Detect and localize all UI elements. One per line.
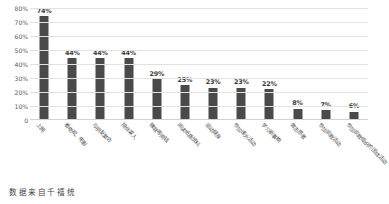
x-axis-label: 运动健身: [203, 121, 223, 141]
y-axis-tick-label: 0: [2, 117, 28, 124]
plot-area: 74%44%44%44%29%25%23%23%22%8%7%6%: [30, 8, 368, 120]
bar-value-label: 22%: [262, 80, 277, 88]
gridline: [30, 50, 368, 51]
x-axis-label: 上网: [34, 121, 47, 134]
y-axis-tick-label: 60%: [2, 33, 28, 40]
bar[interactable]: [68, 58, 77, 120]
gridline: [30, 78, 368, 79]
bar[interactable]: [180, 85, 189, 120]
bar[interactable]: [265, 89, 274, 120]
x-axis-label: 参加宗教组织的团体活动: [344, 121, 389, 166]
bar[interactable]: [96, 58, 105, 120]
x-axis-label: 看电视、电影: [63, 121, 90, 148]
x-axis-label: 阅读纸质资料: [175, 121, 202, 148]
axis-baseline: [30, 119, 368, 120]
bar[interactable]: [40, 16, 49, 120]
x-axis-label: 参加宗教活动: [316, 121, 343, 148]
gridline: [30, 22, 368, 23]
chart-caption: 数据来自千禧统: [9, 186, 76, 197]
y-axis-tick-label: 10%: [2, 103, 28, 110]
gridline: [30, 8, 368, 9]
bar-value-label: 23%: [206, 78, 221, 86]
y-axis-tick-label: 40%: [2, 61, 28, 68]
bar-value-label: 29%: [149, 70, 164, 78]
x-axis-label: 与朋友聚会: [91, 121, 114, 144]
gridline: [30, 106, 368, 107]
y-axis-tick-label: 50%: [2, 47, 28, 54]
x-axis-label: 参加课外活动: [232, 121, 259, 148]
bar-value-label: 7%: [321, 101, 331, 109]
gridline: [30, 64, 368, 65]
x-axis-label: 陪伴家人: [119, 121, 139, 141]
y-axis-tick-label: 70%: [2, 19, 28, 26]
x-axis-label: 学习新事物: [260, 121, 283, 144]
x-axis-label: 赚取零用钱: [147, 121, 170, 144]
y-axis-tick-label: 20%: [2, 89, 28, 96]
bar-value-label: 23%: [234, 78, 249, 86]
y-axis-tick-label: 30%: [2, 75, 28, 82]
x-axis-labels: 上网看电视、电影与朋友聚会陪伴家人赚取零用钱阅读纸质资料运动健身参加课外活动学习…: [30, 121, 368, 183]
x-axis-label: 做志愿者: [288, 121, 308, 141]
gridline: [30, 36, 368, 37]
gridline: [30, 92, 368, 93]
bar[interactable]: [124, 58, 133, 120]
bar[interactable]: [152, 79, 161, 120]
bar-value-label: 25%: [178, 76, 193, 84]
y-axis-tick-label: 80%: [2, 5, 28, 12]
